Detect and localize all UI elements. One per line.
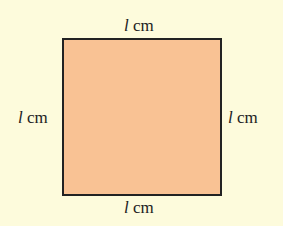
side-length-variable: l	[228, 108, 233, 127]
bottom-side-label: l cm	[124, 199, 154, 216]
side-length-variable: l	[18, 108, 23, 127]
side-length-variable: l	[124, 16, 129, 35]
side-length-variable: l	[124, 198, 129, 217]
unit-label: cm	[27, 108, 48, 127]
unit-label: cm	[133, 16, 154, 35]
right-side-label: l cm	[228, 109, 258, 126]
top-side-label: l cm	[124, 17, 154, 34]
left-side-label: l cm	[18, 109, 48, 126]
square-shape	[62, 38, 222, 196]
unit-label: cm	[237, 108, 258, 127]
unit-label: cm	[133, 198, 154, 217]
